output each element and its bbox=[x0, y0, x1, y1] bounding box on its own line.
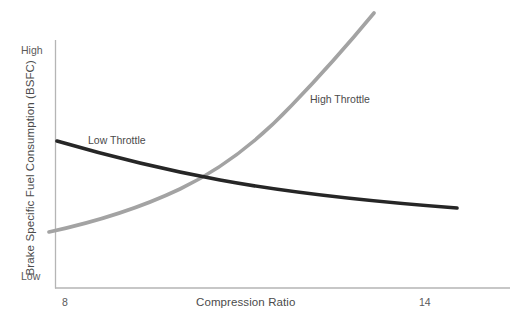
y-axis-low-tick-label: Low bbox=[21, 271, 40, 282]
x-axis-tick-label-14: 14 bbox=[419, 297, 431, 308]
chart-container: Brake Specific Fuel Consumption (BSFC) H… bbox=[0, 0, 531, 326]
y-axis-title: Brake Specific Fuel Consumption (BSFC) bbox=[25, 53, 37, 283]
series-line-low-throttle bbox=[57, 141, 457, 208]
series-label-high-throttle: High Throttle bbox=[310, 94, 370, 105]
series-line-high-throttle bbox=[49, 13, 374, 232]
x-axis-title: Compression Ratio bbox=[196, 297, 296, 309]
y-axis-high-tick-label: High bbox=[21, 45, 43, 56]
series-label-low-throttle: Low Throttle bbox=[88, 135, 146, 146]
x-axis-tick-label-8: 8 bbox=[62, 297, 68, 308]
chart-plot-area bbox=[0, 0, 531, 326]
